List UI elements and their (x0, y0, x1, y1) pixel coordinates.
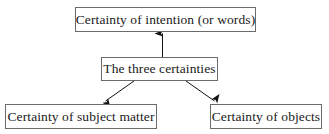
edge-to-objects (186, 81, 215, 101)
node-the-three-certainties: The three certainties (101, 57, 218, 81)
node-intention-label: Certainty of intention (or words) (76, 12, 256, 28)
edge-to-subject-matter (106, 81, 135, 101)
node-three-certainties-label: The three certainties (103, 61, 215, 77)
node-certainty-of-objects: Certainty of objects (210, 104, 322, 129)
node-subject-matter-label: Certainty of subject matter (7, 109, 154, 125)
node-certainty-of-subject-matter: Certainty of subject matter (5, 104, 157, 129)
node-certainty-of-intention: Certainty of intention (or words) (75, 7, 256, 32)
node-objects-label: Certainty of objects (212, 109, 320, 125)
three-certainties-diagram: Certainty of intention (or words) The th… (0, 0, 329, 134)
